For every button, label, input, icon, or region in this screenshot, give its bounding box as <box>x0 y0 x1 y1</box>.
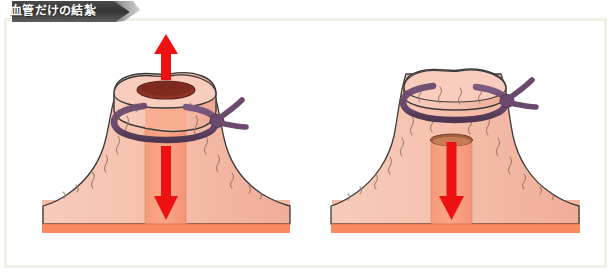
figure-title: 血管だけの結紮 <box>10 2 96 20</box>
figure-root: 血管だけの結紮 <box>0 0 615 276</box>
panel-right <box>304 26 600 260</box>
panel-left <box>14 26 304 260</box>
